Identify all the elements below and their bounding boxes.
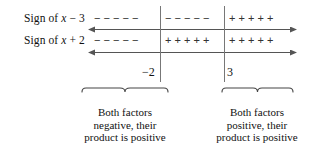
sign-symbols: + + + + + [165,35,209,46]
caption-line-2: positive, their [182,119,317,132]
sign-row-2-segment-right: + + + + + [229,34,287,46]
caption-line-1: Both factors [50,106,200,119]
caption-line-2: negative, their [50,119,200,132]
sign-symbols: − − − − − [165,13,209,24]
tick-label-minus-2: −2 [142,66,155,78]
sign-chart-figure: Sign of x − 3 Sign of x + 2 − − − − − − … [0,0,317,150]
sign-row-1-segment-right: + + + + + [229,12,287,24]
sign-symbols: − − − − − [94,13,138,24]
row-label-suffix: + 2 [66,34,84,46]
brace-left-region [82,88,168,92]
caption-left-region: Both factors negative, their product is … [50,106,200,144]
sign-row-1-segment-left: − − − − − [94,12,156,24]
sign-row-2-segment-left: − − − − − [94,34,156,46]
sign-row-2-segment-middle: + + + + + [165,34,219,46]
tick-label-3: 3 [227,66,233,78]
brace-right-region [222,88,293,92]
sign-symbols: + + + + + [229,35,273,46]
caption-right-region: Both factors positive, their product is … [182,106,317,144]
row-label-x-plus-2: Sign of x + 2 [24,34,85,47]
caption-line-1: Both factors [182,106,317,119]
row-label-prefix: Sign of [24,12,61,24]
row-label-suffix: − 3 [66,12,84,24]
sign-row-1-segment-middle: − − − − − [165,12,219,24]
row-label-prefix: Sign of [24,34,61,46]
sign-symbols: − − − − − [94,35,138,46]
row-label-x-minus-3: Sign of x − 3 [24,12,85,25]
caption-line-3: product is positive [50,131,200,144]
sign-symbols: + + + + + [229,13,273,24]
caption-line-3: product is positive [182,131,317,144]
